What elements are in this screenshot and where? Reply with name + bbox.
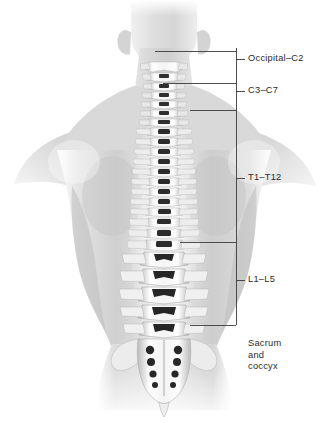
sacral-median-crest — [163, 340, 165, 396]
label-t1-t12: T1–T12 — [248, 172, 282, 184]
sacral-foramen-l4 — [152, 382, 158, 388]
label-sacrum-line1: Sacrum — [248, 338, 314, 350]
sacral-foramen-l2 — [147, 358, 155, 366]
label-occipital-c2: Occipital–C2 — [248, 53, 304, 65]
anatomy-figure: Occipital–C2 C3–C7 T1–T12 L1–L5 Sacrum a… — [0, 0, 328, 423]
top-fade — [0, 0, 328, 16]
label-sacrum-line3: coccyx — [248, 361, 314, 373]
left-ear — [117, 30, 131, 55]
sacral-foramen-l3 — [149, 370, 156, 377]
shading-deltoid-left — [48, 140, 100, 184]
sacral-foramen-r3 — [171, 370, 178, 377]
label-sacrum-coccyx: Sacrum and coccyx — [248, 338, 314, 373]
label-l1-l5: L1–L5 — [248, 274, 275, 286]
label-c3-c7: C3–C7 — [248, 85, 278, 97]
sacral-foramen-r4 — [170, 382, 176, 388]
sacral-foramen-l1 — [146, 346, 154, 354]
label-sacrum-line2: and — [248, 350, 314, 362]
sacral-foramen-r1 — [174, 346, 182, 354]
sacral-foramen-r2 — [173, 358, 181, 366]
